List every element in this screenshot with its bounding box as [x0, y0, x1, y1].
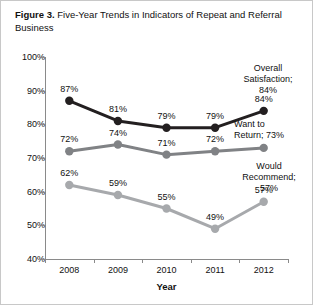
- data-point-label: 62%: [60, 168, 78, 178]
- figure-container: Figure 3. Five-Year Trends in Indicators…: [0, 0, 313, 305]
- data-point-label: 59%: [109, 178, 127, 188]
- data-point-marker: [260, 107, 268, 115]
- data-point-label: 71%: [157, 138, 175, 148]
- data-point-marker: [114, 140, 122, 148]
- data-point-marker: [211, 147, 219, 155]
- annotation-overall-satisfaction: Overall Satisfaction; 84%: [229, 63, 307, 96]
- data-point-label: 74%: [109, 128, 127, 138]
- data-point-label: 79%: [206, 111, 224, 121]
- data-point-label: 81%: [109, 104, 127, 114]
- chart-plot-area: 40%50%60%70%80%90%100% 20082009201020112…: [1, 1, 313, 305]
- data-point-marker: [65, 147, 73, 155]
- data-point-marker: [260, 144, 268, 152]
- data-point-marker: [162, 124, 170, 132]
- data-point-label: 87%: [60, 84, 78, 94]
- data-point-marker: [162, 204, 170, 212]
- data-point-marker: [114, 191, 122, 199]
- data-point-label: 55%: [157, 192, 175, 202]
- annotation-would-recommend: Would Recommend; 57%: [229, 161, 309, 194]
- data-point-label: 72%: [206, 134, 224, 144]
- data-point-marker: [211, 124, 219, 132]
- data-point-label: 49%: [206, 212, 224, 222]
- data-point-marker: [211, 225, 219, 233]
- annotation-want-to-return: Want to Return; 73%: [234, 119, 312, 141]
- data-point-marker: [162, 150, 170, 158]
- data-point-label: 79%: [157, 111, 175, 121]
- data-point-marker: [114, 117, 122, 125]
- data-point-marker: [65, 97, 73, 105]
- data-point-label: 72%: [60, 134, 78, 144]
- chart-series-layer: [1, 1, 313, 305]
- data-point-marker: [65, 181, 73, 189]
- data-point-marker: [260, 198, 268, 206]
